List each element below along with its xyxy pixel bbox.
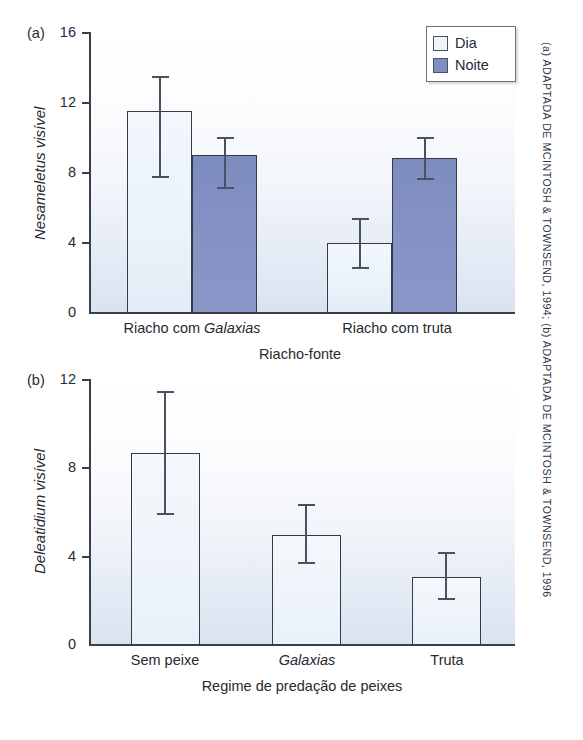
panel-a-x-axis-label: Riacho-fonte [190,346,410,363]
figure-credit: (a) ADAPTADA DE MCINTOSH & TOWNSEND, 199… [541,42,553,598]
panel-b-ticklabel-12: 12 [46,372,76,387]
panel-b-category-label-sem-peixe: Sem peixe [105,652,225,669]
panel-a-y-axis-label: Nesameletus visível [31,107,48,240]
cat-a-0-italic: Galaxias [204,320,260,336]
cat-b-1-italic: Galaxias [279,652,335,668]
figure-container: (a) 16 12 8 4 0 Nesameletus visível [0,0,583,740]
panel-a-ticklabel-12: 12 [46,95,76,110]
errorbar-a-galaxias-noite [207,137,243,189]
legend-swatch-dia-icon [433,36,448,51]
panel-a-ticklabel-8: 8 [46,165,76,180]
legend-item-noite[interactable]: Noite [433,54,509,76]
panel-b-tick-4 [82,556,90,558]
errorbar-b-galaxias [288,504,324,564]
panel-a-category-label-galaxias: Riacho com Galaxias [92,320,292,337]
legend-label-dia: Dia [455,36,477,51]
legend-label-noite: Noite [455,58,489,73]
panel-a-tick-4 [82,242,90,244]
errorbar-b-sem-peixe [147,391,183,515]
panel-b-ticklabel-8: 8 [46,460,76,475]
panel-a-ticklabel-0: 0 [46,305,76,320]
legend: Dia Noite [426,26,516,82]
cat-a-0-plain: Riacho com [123,320,204,336]
panel-a-ticklabel-16: 16 [46,25,76,40]
panel-b-ticklabel-4: 4 [46,549,76,564]
panel-b-letter: (b) [27,372,45,388]
panel-a-category-label-truta: Riacho com truta [312,320,482,337]
panel-b-category-label-truta: Truta [387,652,507,669]
panel-b-y-axis [89,379,91,646]
legend-swatch-noite-icon [433,58,448,73]
panel-a-tick-16 [82,32,90,34]
panel-a-tick-12 [82,102,90,104]
panel-b-tick-12 [82,379,90,381]
panel-a-letter: (a) [27,25,45,41]
panel-b-y-axis-label: Deleatidium visível [31,449,48,574]
errorbar-a-truta-dia [342,218,378,269]
panel-b-x-axis-label: Regime de predação de peixes [152,678,452,695]
panel-a-tick-8 [82,172,90,174]
panel-b-ticklabel-0: 0 [46,637,76,652]
panel-b-tick-8 [82,467,90,469]
errorbar-a-galaxias-dia [142,76,178,178]
legend-item-dia[interactable]: Dia [433,32,509,54]
panel-a-ticklabel-4: 4 [46,235,76,250]
errorbar-a-truta-noite [407,137,443,180]
panel-b-category-label-galaxias: Galaxias [247,652,367,669]
bar-a-truta-noite [392,158,457,313]
errorbar-b-truta [428,552,464,600]
